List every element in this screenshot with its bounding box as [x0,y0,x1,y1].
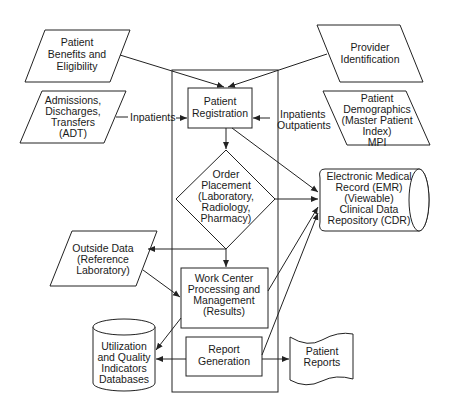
node-emr-cdr: Electronic Medical Record (EMR) (Viewabl… [320,169,429,231]
node-adt: Admissions, Discharges, Transfers (ADT) [20,91,126,143]
node-outside-data: Outside Data (Reference Laboratory) [50,231,157,286]
node-label: Eligibility [57,60,99,72]
node-provider-identification: Provider Identification [317,25,423,82]
node-label: Registration [192,107,248,119]
node-label: MPI [368,136,387,148]
node-patient-benefits: Patient Benefits and Eligibility [25,30,130,82]
node-label: Generation [198,355,250,367]
node-label: Report [208,343,240,355]
node-label: Benefits and [48,48,107,60]
node-patient-demographics: Patient Demographics (Master Patient Ind… [323,91,430,148]
node-work-center: Work Center Processing and Management (R… [181,268,268,328]
node-label: (ADT) [59,127,87,139]
node-label: Databases [99,373,149,385]
node-label: Pharmacy) [201,212,252,224]
node-report-generation: Report Generation [186,337,262,376]
node-label: Reports [304,356,341,368]
node-patient-reports: Patient Reports [290,333,353,385]
edge-label-outpatients-right: Outpatients [277,119,331,131]
node-label: Patient [204,95,237,107]
node-patient-registration: Patient Registration [188,88,252,128]
node-label: Repository (CDR) [328,214,411,226]
edge-label-inpatients-left: Inpatients [130,111,176,123]
node-label: Patient [61,36,94,48]
node-utilization-databases: Utilization and Quality Indicators Datab… [93,319,155,391]
node-label: Identification [341,53,400,65]
node-label: Laboratory) [76,264,130,276]
flowchart-diagram: Patient Benefits and Eligibility Admissi… [0,0,450,413]
node-label: (Results) [203,305,245,317]
node-label: Provider [350,41,390,53]
